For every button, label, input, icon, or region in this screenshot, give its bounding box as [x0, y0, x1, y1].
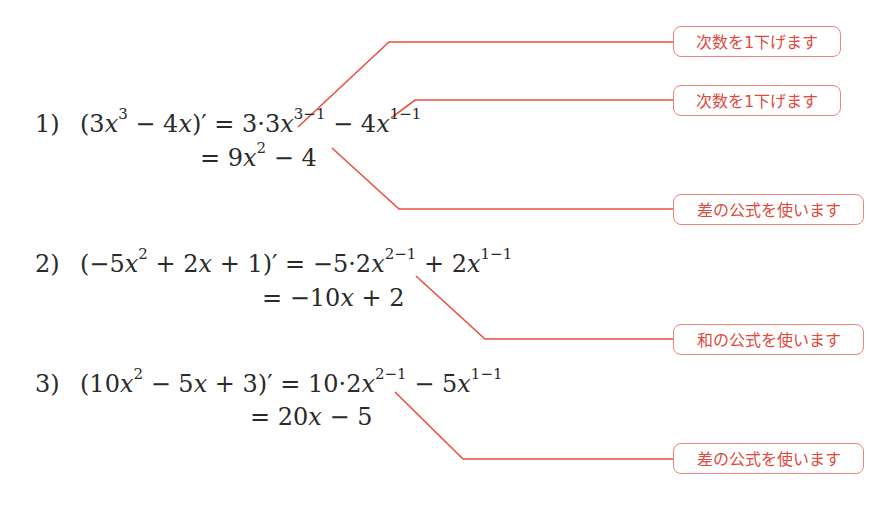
variable: x — [243, 144, 257, 172]
variable: x — [178, 110, 192, 138]
equation-result: = −10x + 2 — [262, 286, 405, 310]
problem-number: 1) — [35, 112, 60, 136]
equation-line: (3x3 − 4x)′ = 3·3x3−1 − 4x1−1 — [80, 112, 421, 136]
exponent: 2−1 — [375, 365, 407, 383]
exponent: 2−1 — [385, 245, 417, 263]
exponent: 1−1 — [471, 365, 503, 383]
variable: x — [125, 250, 139, 278]
term: + 3)′ = 10·2 — [207, 370, 361, 398]
equation-result: = 9x2 − 4 — [200, 146, 317, 170]
term: (−5 — [80, 250, 125, 278]
exponent: 1−1 — [481, 245, 513, 263]
callout-difference-rule: 差の公式を使います — [673, 194, 864, 225]
term: = 20 — [250, 403, 308, 431]
leader-line-4 — [416, 276, 673, 339]
exponent: 3−1 — [294, 105, 326, 123]
equation-line: (−5x2 + 2x + 1)′ = −5·2x2−1 + 2x1−1 — [80, 252, 512, 276]
term: (3 — [80, 110, 105, 138]
variable: x — [280, 110, 294, 138]
exponent: 2 — [138, 245, 148, 263]
variable: x — [340, 284, 354, 312]
equation-line: (10x2 − 5x + 3)′ = 10·2x2−1 − 5x1−1 — [80, 372, 503, 396]
variable: x — [308, 403, 322, 431]
leader-line-2 — [391, 100, 673, 118]
variable: x — [376, 110, 390, 138]
term: + 2 — [148, 250, 199, 278]
callout-lower-degree: 次数を1下げます — [673, 26, 841, 57]
leader-line-5 — [395, 392, 673, 459]
term: − 5 — [407, 370, 458, 398]
term: + 2 — [354, 284, 405, 312]
term: − 5 — [143, 370, 194, 398]
variable: x — [371, 250, 385, 278]
exponent: 1−1 — [390, 105, 422, 123]
term: − 4 — [325, 110, 376, 138]
variable: x — [467, 250, 481, 278]
term: − 4 — [266, 144, 317, 172]
exponent: 3 — [118, 105, 128, 123]
problem-number: 3) — [35, 372, 60, 396]
term: − 4 — [128, 110, 179, 138]
callout-sum-rule: 和の公式を使います — [673, 324, 864, 355]
callout-lower-degree: 次数を1下げます — [673, 85, 841, 116]
term: + 2 — [416, 250, 467, 278]
variable: x — [120, 370, 134, 398]
equation-result: = 20x − 5 — [250, 405, 372, 429]
leader-line-3 — [332, 148, 673, 209]
callout-difference-rule: 差の公式を使います — [673, 443, 864, 474]
term: (10 — [80, 370, 120, 398]
variable: x — [198, 250, 212, 278]
variable: x — [194, 370, 208, 398]
term: − 5 — [322, 403, 373, 431]
problem-number: 2) — [35, 252, 60, 276]
variable: x — [105, 110, 119, 138]
term: )′ = 3·3 — [192, 110, 280, 138]
variable: x — [361, 370, 375, 398]
term: = 9 — [200, 144, 243, 172]
term: = −10 — [262, 284, 340, 312]
term: + 1)′ = −5·2 — [212, 250, 371, 278]
exponent: 2 — [133, 365, 143, 383]
variable: x — [457, 370, 471, 398]
exponent: 2 — [257, 139, 267, 157]
